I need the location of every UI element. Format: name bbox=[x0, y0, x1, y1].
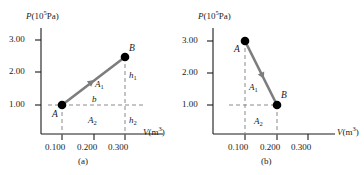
annotation-area-upper: A1 bbox=[95, 80, 104, 89]
annotation-area-upper-sub: 1 bbox=[101, 83, 104, 90]
panel-b: P(105Pa) V(m3) 3.00 2.00 1.00 0.100 0.20… bbox=[182, 0, 364, 175]
panel-a-caption: (a) bbox=[78, 157, 88, 166]
point-b-dot bbox=[121, 53, 130, 62]
y-axis-title-unit-post: Pa) bbox=[47, 11, 59, 21]
y-tick-label-1: 1.00 bbox=[9, 100, 25, 109]
x-tick-label-0100: 0.100 bbox=[228, 143, 248, 152]
y-axis-title-unit-pre: (10 bbox=[32, 11, 44, 21]
point-b-dot bbox=[273, 101, 282, 110]
point-a-label: A bbox=[234, 45, 240, 55]
process-arrowhead bbox=[258, 71, 267, 80]
annotation-height-upper: h1 bbox=[129, 71, 137, 80]
pv-diagram-figure: P(105Pa) V(m3) 3.00 2.00 1.00 0.100 0.20… bbox=[0, 0, 364, 175]
annotation-area-lower-symbol: A bbox=[88, 115, 94, 125]
annotation-area-lower-symbol: A bbox=[254, 116, 260, 126]
panel-b-caption: (b) bbox=[261, 157, 272, 166]
point-a-label: A bbox=[52, 110, 58, 120]
annotation-base: b bbox=[92, 95, 97, 104]
x-tick-label-0200: 0.200 bbox=[260, 143, 280, 152]
x-tick-label-0200: 0.200 bbox=[77, 143, 97, 152]
y-axis-title-exponent: 5 bbox=[216, 9, 219, 16]
annotation-height-upper-sub: 1 bbox=[134, 74, 137, 81]
annotation-area-lower-sub: 2 bbox=[94, 119, 97, 126]
annotation-area-upper-symbol: A bbox=[249, 82, 255, 92]
y-axis-title: P(105Pa) bbox=[198, 12, 231, 21]
x-axis-title-exponent: 3 bbox=[159, 125, 162, 132]
y-tick-label-3: 3.00 bbox=[9, 35, 25, 44]
x-axis-title-unit-post: ) bbox=[162, 127, 165, 137]
x-axis-title: V(m3) bbox=[143, 128, 165, 137]
annotation-area-upper: A1 bbox=[249, 83, 258, 92]
annotation-area-lower-sub: 2 bbox=[260, 120, 263, 127]
annotation-base-symbol: b bbox=[92, 94, 97, 104]
x-axis-title: V(m3) bbox=[337, 128, 359, 137]
x-tick-label-0300: 0.300 bbox=[291, 143, 311, 152]
annotation-height-lower-symbol: h bbox=[129, 115, 134, 125]
annotation-area-lower: A2 bbox=[254, 117, 263, 126]
x-axis-title-exponent: 3 bbox=[353, 125, 356, 132]
x-axis-title-unit-post: ) bbox=[356, 127, 359, 137]
annotation-area-lower: A2 bbox=[88, 116, 97, 125]
annotation-height-upper-symbol: h bbox=[129, 70, 134, 80]
y-axis-title-unit-pre: (10 bbox=[204, 11, 216, 21]
panel-a: P(105Pa) V(m3) 3.00 2.00 1.00 0.100 0.20… bbox=[0, 0, 182, 175]
x-axis-title-unit-pre: (m bbox=[343, 127, 353, 137]
annotation-height-lower: h2 bbox=[129, 116, 137, 125]
x-tick-label-0300: 0.300 bbox=[108, 143, 128, 152]
y-tick-label-2: 2.00 bbox=[182, 68, 198, 77]
annotation-height-lower-sub: 2 bbox=[134, 119, 137, 126]
y-tick-label-3: 3.00 bbox=[182, 36, 198, 45]
annotation-area-upper-sub: 1 bbox=[255, 86, 258, 93]
annotation-area-upper-symbol: A bbox=[95, 79, 101, 89]
y-tick-label-1: 1.00 bbox=[182, 100, 198, 109]
y-axis-title-exponent: 5 bbox=[44, 9, 47, 16]
x-tick-label-0100: 0.100 bbox=[45, 143, 65, 152]
y-axis-title: P(105Pa) bbox=[26, 12, 59, 21]
y-tick-label-2: 2.00 bbox=[9, 67, 25, 76]
point-a-dot bbox=[58, 101, 67, 110]
x-axis-title-unit-pre: (m bbox=[149, 127, 159, 137]
point-b-label: B bbox=[281, 91, 287, 101]
point-b-label: B bbox=[129, 44, 135, 54]
y-axis-title-unit-post: Pa) bbox=[219, 11, 231, 21]
point-a-dot bbox=[241, 37, 250, 46]
